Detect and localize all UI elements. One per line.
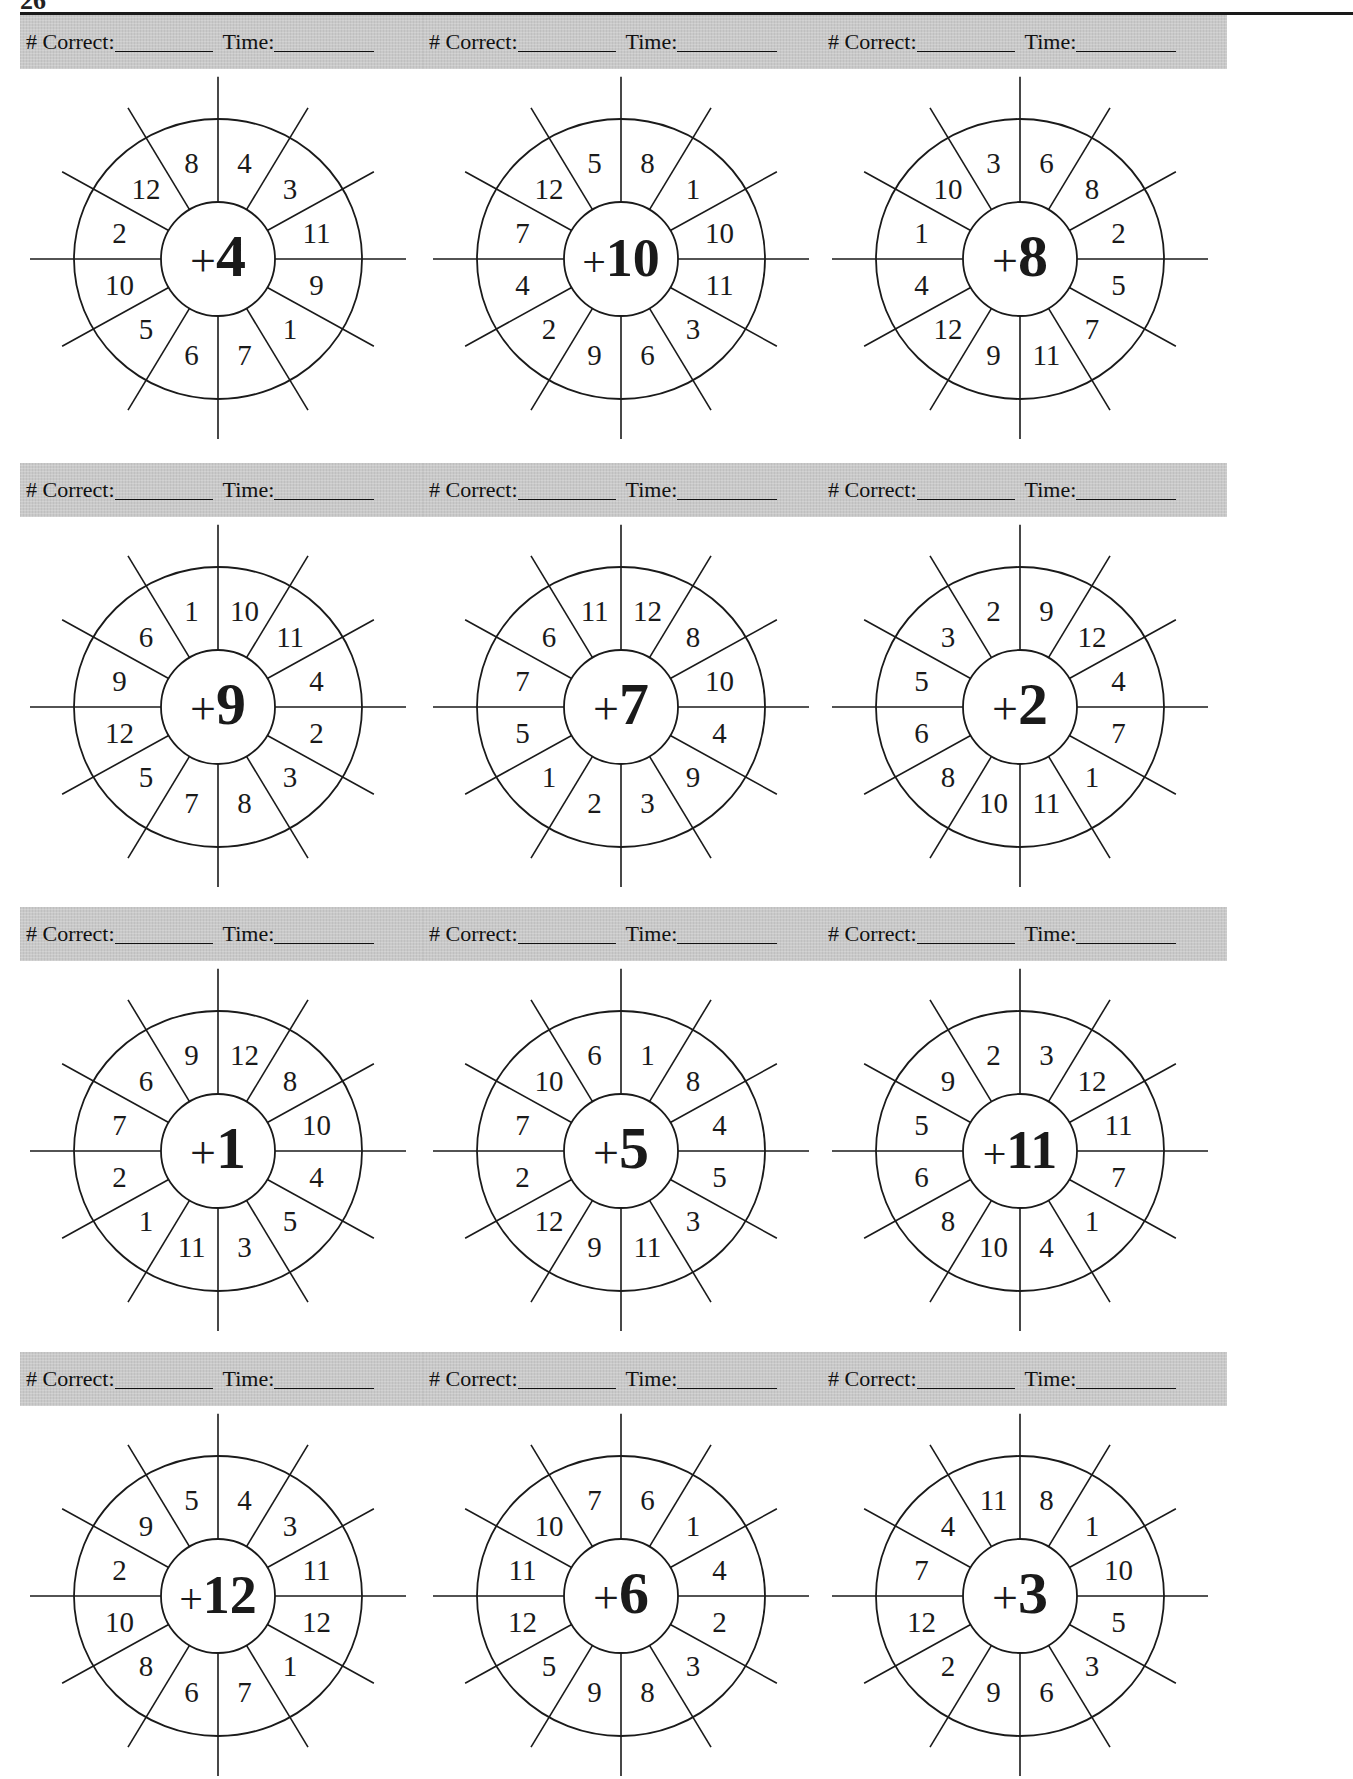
correct-answer-blank[interactable]	[115, 481, 213, 500]
sector-number: 4	[237, 147, 252, 179]
sector-number: 6	[139, 1065, 154, 1097]
sector-number: 2	[587, 787, 602, 819]
sector-number: 9	[587, 339, 602, 371]
sector-number: 10	[105, 1606, 134, 1638]
time-answer-blank[interactable]	[274, 925, 374, 944]
correct-answer-blank[interactable]	[115, 925, 213, 944]
addend-number: 5	[619, 1115, 649, 1181]
sector-number: 9	[139, 1510, 154, 1542]
sector-number: 11	[581, 595, 609, 627]
time-answer-blank[interactable]	[274, 33, 374, 52]
sector-number: 10	[705, 665, 734, 697]
sector-number: 5	[914, 665, 929, 697]
correct-answer-blank[interactable]	[518, 1370, 616, 1389]
time-answer-blank[interactable]	[677, 481, 777, 500]
sector-number: 7	[1085, 313, 1100, 345]
time-answer-blank[interactable]	[274, 1370, 374, 1389]
sector-number: 12	[633, 595, 662, 627]
time-answer-blank[interactable]	[677, 33, 777, 52]
sector-number: 9	[986, 339, 1001, 371]
sector-number: 4	[914, 269, 929, 301]
sector-number: 1	[283, 313, 298, 345]
plus-operator: +	[190, 1127, 216, 1178]
sector-number: 11	[633, 1231, 661, 1263]
time-label: Time:	[626, 29, 678, 55]
sector-number: 8	[1039, 1484, 1054, 1516]
sector-number: 2	[1111, 217, 1126, 249]
sector-number: 8	[686, 1065, 701, 1097]
sector-number: 9	[941, 1065, 956, 1097]
sector-number: 7	[515, 217, 530, 249]
sector-number: 5	[515, 717, 530, 749]
sector-number: 7	[237, 1676, 252, 1708]
sector-number: 10	[979, 787, 1008, 819]
sector-number: 5	[542, 1650, 557, 1682]
sector-number: 4	[1039, 1231, 1054, 1263]
addition-wheel: 682571191241103+8	[822, 69, 1222, 439]
sector-number: 3	[1085, 1650, 1100, 1682]
sector-number: 5	[139, 761, 154, 793]
correct-answer-blank[interactable]	[917, 481, 1015, 500]
sector-number: 4	[1111, 665, 1126, 697]
correct-answer-blank[interactable]	[917, 33, 1015, 52]
addition-wheel: 312117141086592+11	[822, 961, 1222, 1331]
sector-number: 3	[237, 1231, 252, 1263]
addition-wheel-worksheet-4: # Correct: Time: 101142387512961+9	[20, 463, 470, 908]
correct-answer-blank[interactable]	[518, 33, 616, 52]
sector-number: 7	[112, 1109, 127, 1141]
sector-number: 6	[914, 717, 929, 749]
correct-answer-blank[interactable]	[115, 1370, 213, 1389]
addend-number: 12	[203, 1565, 257, 1625]
addition-wheel-worksheet-6: # Correct: Time: 912471111086532+2	[822, 463, 1272, 908]
correct-answer-blank[interactable]	[917, 925, 1015, 944]
sector-number: 4	[941, 1510, 956, 1542]
score-header-bar: # Correct: Time:	[20, 15, 425, 69]
addend-number: 6	[619, 1560, 649, 1626]
sector-number: 2	[941, 1650, 956, 1682]
sector-number: 6	[640, 1484, 655, 1516]
sector-number: 2	[542, 313, 557, 345]
sector-number: 12	[534, 1205, 563, 1237]
time-answer-blank[interactable]	[274, 481, 374, 500]
sector-number: 8	[184, 147, 199, 179]
sector-number: 6	[184, 339, 199, 371]
sector-number: 6	[914, 1161, 929, 1193]
correct-answer-blank[interactable]	[115, 33, 213, 52]
sector-number: 7	[1111, 717, 1126, 749]
time-answer-blank[interactable]	[1076, 33, 1176, 52]
score-header-bar: # Correct: Time:	[20, 1352, 425, 1406]
correct-label: # Correct:	[26, 29, 115, 55]
plus-operator: +	[179, 1576, 203, 1622]
plus-operator: +	[582, 239, 606, 285]
time-answer-blank[interactable]	[1076, 481, 1176, 500]
sector-number: 9	[986, 1676, 1001, 1708]
addition-wheel-worksheet-9: # Correct: Time: 312117141086592+11	[822, 907, 1272, 1352]
sector-number: 11	[1032, 787, 1060, 819]
plus-operator: +	[992, 1572, 1018, 1623]
sector-number: 1	[283, 1650, 298, 1682]
time-answer-blank[interactable]	[1076, 925, 1176, 944]
correct-answer-blank[interactable]	[917, 1370, 1015, 1389]
correct-label: # Correct:	[828, 921, 917, 947]
time-answer-blank[interactable]	[677, 925, 777, 944]
time-answer-blank[interactable]	[677, 1370, 777, 1389]
sector-number: 9	[1039, 595, 1054, 627]
time-label: Time:	[223, 477, 275, 503]
sector-number: 3	[640, 787, 655, 819]
sector-number: 1	[542, 761, 557, 793]
time-answer-blank[interactable]	[1076, 1370, 1176, 1389]
sector-number: 12	[1078, 621, 1107, 653]
sector-number: 7	[1111, 1161, 1126, 1193]
score-header-bar: # Correct: Time:	[20, 907, 425, 961]
sector-number: 9	[184, 1039, 199, 1071]
addition-wheel-worksheet-11: # Correct: Time: 614238951211107+6	[423, 1352, 873, 1779]
correct-label: # Correct:	[429, 29, 518, 55]
sector-number: 8	[237, 787, 252, 819]
sector-number: 3	[283, 761, 298, 793]
correct-answer-blank[interactable]	[518, 925, 616, 944]
sector-number: 3	[941, 621, 956, 653]
score-header-bar: # Correct: Time:	[423, 1352, 828, 1406]
sector-number: 2	[986, 1039, 1001, 1071]
correct-answer-blank[interactable]	[518, 481, 616, 500]
addition-wheel: 614238951211107+6	[423, 1406, 823, 1776]
